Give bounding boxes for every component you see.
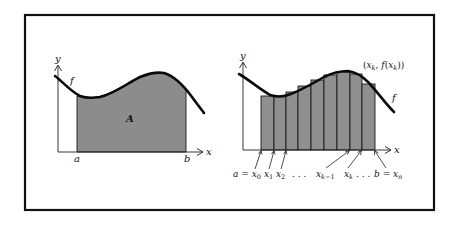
pointer-xn bbox=[375, 151, 386, 168]
pointer-x0 bbox=[255, 151, 261, 169]
x-axis-label: x bbox=[206, 146, 212, 157]
area-label: A bbox=[125, 113, 134, 124]
label-ellipsis: . . . bbox=[292, 169, 306, 179]
riemann-rectangle bbox=[311, 80, 324, 150]
pointer-xk bbox=[348, 151, 361, 168]
y-axis-label: y bbox=[239, 50, 246, 61]
point-label: (xk, f(xk)) bbox=[363, 60, 404, 72]
left-panel: y x f A a b bbox=[54, 53, 212, 164]
riemann-rectangle bbox=[324, 75, 337, 150]
y-axis-label: y bbox=[54, 53, 61, 64]
curve-label: f bbox=[69, 75, 76, 86]
riemann-sum-figure: y x f A a b (xk, f(xk)) f y x bbox=[0, 0, 458, 225]
upper-bound-label: b bbox=[184, 153, 190, 164]
right-panel: (xk, f(xk)) f y x a = x0 x1 x2 . . . xk−… bbox=[233, 50, 404, 181]
riemann-rectangle bbox=[274, 96, 286, 150]
curve-label: f bbox=[391, 92, 398, 103]
riemann-rectangle bbox=[337, 72, 350, 150]
riemann-rectangle bbox=[261, 96, 274, 150]
partition-labels: a = x0 x1 x2 . . . xk−1 xk . . . b = xn bbox=[233, 169, 402, 181]
lower-bound-label: a bbox=[74, 153, 80, 164]
riemann-rectangle bbox=[286, 92, 298, 150]
pointer-xk-1 bbox=[326, 151, 349, 168]
label-x0: a = x0 bbox=[233, 169, 261, 181]
x-axis-label: x bbox=[394, 144, 400, 155]
riemann-rectangle bbox=[362, 84, 375, 150]
riemann-rectangle bbox=[350, 74, 362, 150]
riemann-rectangle bbox=[298, 86, 311, 150]
label-ellipsis: . . . bbox=[356, 169, 370, 179]
